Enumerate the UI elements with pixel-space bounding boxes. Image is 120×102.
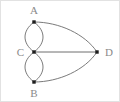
graph-figure: A C B D: [0, 0, 120, 102]
vertex-label-b: B: [30, 87, 37, 99]
vertex-dot-c: [32, 50, 35, 53]
vertex-dot-b: [32, 80, 35, 83]
vertex-label-d: D: [105, 46, 113, 58]
vertex-label-a: A: [30, 4, 38, 16]
edge-group: [25, 22, 97, 82]
edge-a-c-left: [25, 22, 34, 52]
edge-c-b-right: [34, 52, 43, 82]
vertex-dot-d: [95, 50, 98, 53]
edge-c-b-left: [25, 52, 34, 82]
vertex-label-c: C: [17, 46, 24, 58]
edge-a-c-right: [34, 22, 43, 52]
graph-canvas: A C B D: [1, 1, 120, 102]
vertex-dot-a: [32, 20, 35, 23]
